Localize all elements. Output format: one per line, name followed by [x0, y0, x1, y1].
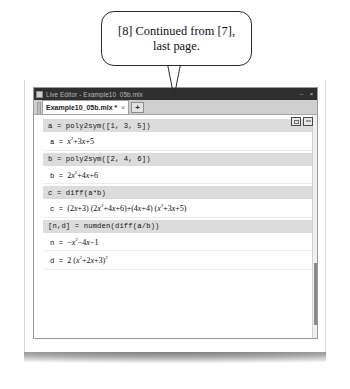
output-cell: b = 2x2+4x+6 [43, 168, 312, 185]
output-expression: x2+3x+5 [67, 137, 94, 146]
application-icon [36, 91, 43, 98]
tab-strip: Example10_05b.mlx * × + [34, 100, 317, 115]
tab-strip-grip[interactable] [37, 102, 41, 114]
window-title: Live Editor - Example10_05b.mlx [46, 91, 295, 98]
code-cell[interactable]: b = poly2sym([2, 4, 6]) [43, 153, 312, 166]
code-cell[interactable]: c = diff(a*b) [43, 186, 312, 199]
cell-row: c = diff(a*b) [43, 186, 312, 199]
cell-row: n = −x2−4x−1 [43, 235, 312, 252]
live-editor-window: Live Editor - Example10_05b.mlx – × Exam… [33, 87, 318, 339]
cell-row: b = 2x2+4x+6 [43, 168, 312, 185]
cell-row: a = poly2sym([1, 3, 5]) [43, 119, 312, 132]
close-icon[interactable]: × [308, 91, 315, 98]
tab-example10-05b[interactable]: Example10_05b.mlx * × [42, 100, 129, 114]
output-cell: a = x2+3x+5 [43, 134, 312, 151]
output-variable: c = [50, 205, 67, 213]
code-cell[interactable]: [n,d] = numden(diff(a/b)) [43, 220, 312, 233]
cell-row: [n,d] = numden(diff(a/b)) [43, 220, 312, 233]
vertical-scrollbar[interactable] [312, 115, 317, 338]
output-variable: b = [50, 172, 67, 180]
output-cell: d = 2 (x2+2x+3)2 [43, 253, 312, 270]
new-tab-button[interactable]: + [131, 102, 144, 113]
cell-row: c = (2x+3) (2x2+4x+6)+(4x+4) (x2+3x+5) [43, 201, 312, 218]
output-cell: c = (2x+3) (2x2+4x+6)+(4x+4) (x2+3x+5) [43, 201, 312, 218]
output-expression: 2x2+4x+6 [67, 171, 98, 180]
code-cell[interactable]: a = poly2sym([1, 3, 5]) [43, 119, 312, 132]
output-cell: n = −x2−4x−1 [43, 235, 312, 252]
output-expression: −x2−4x−1 [67, 238, 98, 247]
output-inline-toggle-icon[interactable] [291, 117, 301, 126]
output-variable: n = [50, 239, 67, 247]
document-area: a = poly2sym([1, 3, 5])a = x2+3x+5b = po… [34, 115, 317, 338]
output-expression: (2x+3) (2x2+4x+6)+(4x+4) (x2+3x+5) [67, 204, 186, 213]
annotation-callout: [8] Continued from [7], last page. [101, 11, 252, 66]
output-variable: a = [50, 138, 67, 146]
cell-list: a = poly2sym([1, 3, 5])a = x2+3x+5b = po… [43, 119, 312, 270]
scrollbar-thumb[interactable] [314, 263, 318, 325]
output-expression: 2 (x2+2x+3)2 [67, 256, 107, 265]
view-toggle-group [291, 117, 313, 126]
tab-close-icon[interactable]: × [121, 104, 125, 111]
output-right-toggle-icon[interactable] [303, 117, 313, 126]
page-edge-shadow [24, 352, 326, 368]
tab-label: Example10_05b.mlx * [46, 104, 117, 111]
output-variable: d = [50, 257, 67, 265]
cell-row: b = poly2sym([2, 4, 6]) [43, 153, 312, 166]
document-gutter [34, 115, 43, 338]
cell-row: a = x2+3x+5 [43, 134, 312, 151]
cell-row: d = 2 (x2+2x+3)2 [43, 253, 312, 270]
notebook-content: a = poly2sym([1, 3, 5])a = x2+3x+5b = po… [43, 115, 317, 338]
minimize-icon[interactable]: – [298, 91, 305, 98]
annotation-callout-text: [8] Continued from [7], last page. [102, 24, 251, 54]
